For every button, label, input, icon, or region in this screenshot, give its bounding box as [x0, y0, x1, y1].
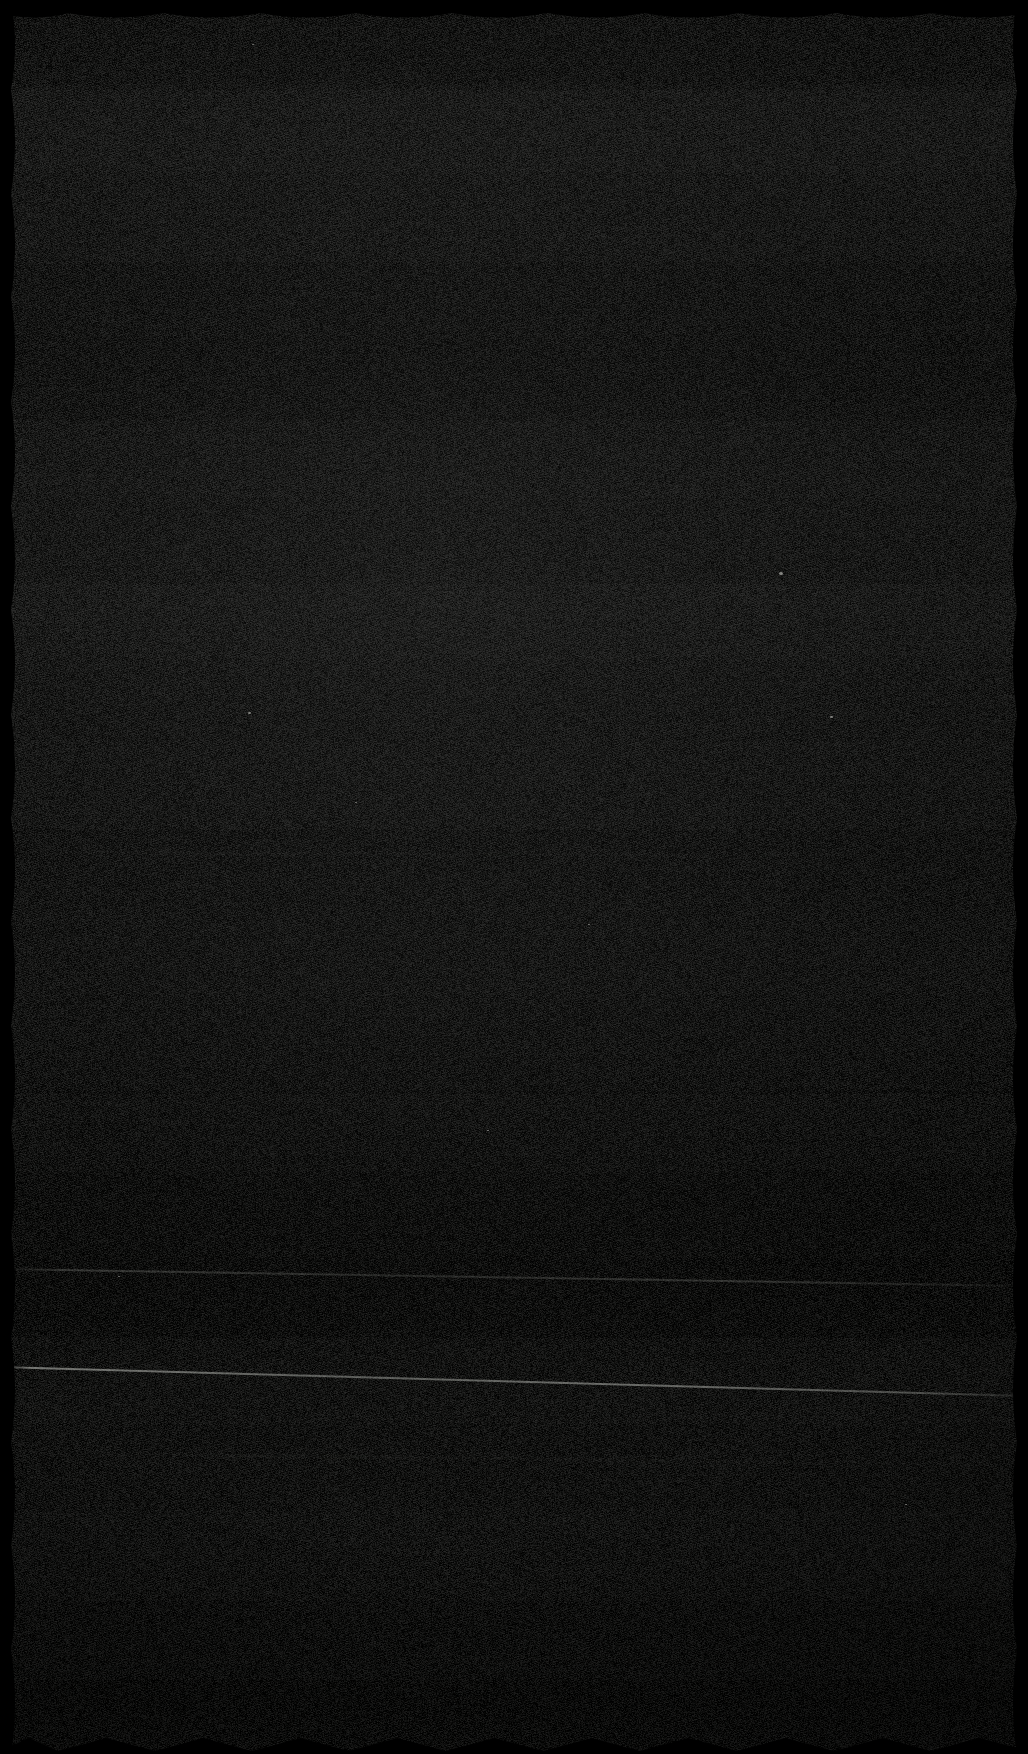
screenshot-canvas: Near-black, heavily degraded image consi… [0, 0, 1028, 1754]
noise-texture-layer [0, 0, 1028, 1754]
